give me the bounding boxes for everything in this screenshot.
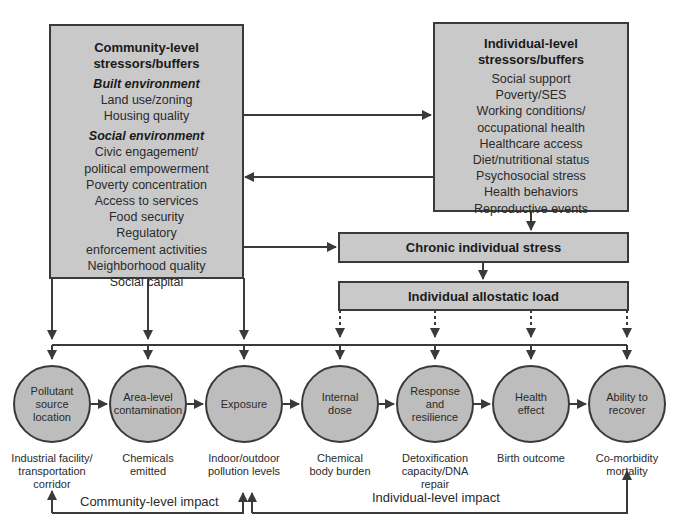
- stage-health-effect: Healtheffect: [492, 365, 570, 443]
- caption-line: Birth outcome: [497, 452, 565, 464]
- caption-line: pollution levels: [208, 465, 280, 477]
- individual-item: Healthcare access: [435, 136, 627, 152]
- caption-line: emitted: [130, 465, 166, 477]
- community-item: political empowerment: [51, 161, 242, 177]
- stage-label: resilience: [412, 411, 458, 423]
- community-item: Social capital: [51, 274, 242, 290]
- stage-label: and: [426, 398, 444, 410]
- individual-item: Psychosocial stress: [435, 168, 627, 184]
- community-level-impact-label: Community-level impact: [80, 494, 219, 509]
- individual-item: Reproductive events: [435, 201, 627, 217]
- stage-label: location: [33, 411, 71, 423]
- community-item: Access to services: [51, 193, 242, 209]
- caption-line: Co-morbidity: [596, 452, 658, 464]
- individual-item: Health behaviors: [435, 184, 627, 200]
- stage-pollutant-source: Pollutantsourcelocation: [13, 365, 91, 443]
- individual-item: Diet/nutritional status: [435, 152, 627, 168]
- community-stressors-box: Community-level stressors/buffers Built …: [49, 24, 244, 279]
- caption-line: body burden: [309, 465, 370, 477]
- community-item: Housing quality: [51, 108, 242, 124]
- caption-line: corridor: [33, 478, 70, 490]
- community-item: Civic engagement/: [51, 144, 242, 160]
- community-item: Food security: [51, 209, 242, 225]
- caption-line: Chemical: [317, 452, 363, 464]
- stage-label: Exposure: [221, 398, 267, 410]
- chronic-stress-box: Chronic individual stress: [338, 232, 629, 263]
- individual-item: Social support: [435, 71, 627, 87]
- caption-health-effect: Birth outcome: [476, 452, 586, 465]
- stage-label: contamination: [114, 404, 183, 416]
- stage-label: source: [35, 398, 68, 410]
- stage-area-contamination: Area-levelcontamination: [109, 365, 187, 443]
- stage-label: Pollutant: [31, 385, 74, 397]
- individual-box-title-2: stressors/buffers: [435, 52, 627, 68]
- caption-response-resilience: Detoxificationcapacity/DNArepair: [380, 452, 490, 491]
- stage-label: Ability to: [606, 391, 648, 403]
- stage-label: effect: [518, 404, 545, 416]
- caption-line: Indoor/outdoor: [208, 452, 280, 464]
- built-environment-heading: Built environment: [51, 76, 242, 92]
- caption-line: repair: [421, 478, 449, 490]
- caption-line: Detoxification: [402, 452, 468, 464]
- community-item: Neighborhood quality: [51, 258, 242, 274]
- individual-level-impact-label: Individual-level impact: [372, 490, 500, 505]
- caption-area-contamination: Chemicalsemitted: [93, 452, 203, 478]
- social-environment-heading: Social environment: [51, 128, 242, 144]
- stage-label: recover: [609, 404, 646, 416]
- community-box-title-1: Community-level: [51, 40, 242, 56]
- community-item: enforcement activities: [51, 242, 242, 258]
- stage-label: Response: [410, 385, 460, 397]
- community-item: Poverty concentration: [51, 177, 242, 193]
- caption-ability-to-recover: Co-morbiditymortality: [572, 452, 682, 478]
- stage-internal-dose: Internaldose: [301, 365, 379, 443]
- caption-line: mortality: [606, 465, 648, 477]
- caption-pollutant-source: Industrial facility/transportationcorrid…: [0, 452, 107, 491]
- caption-line: transportation: [18, 465, 85, 477]
- stage-label: Internal: [322, 391, 359, 403]
- caption-internal-dose: Chemicalbody burden: [285, 452, 395, 478]
- caption-line: Industrial facility/: [11, 452, 92, 464]
- stage-label: Health: [515, 391, 547, 403]
- caption-line: Chemicals: [122, 452, 173, 464]
- community-item: Land use/zoning: [51, 92, 242, 108]
- stage-exposure: Exposure: [205, 365, 283, 443]
- community-box-title-2: stressors/buffers: [51, 56, 242, 72]
- individual-stressors-box: Individual-level stressors/buffers Socia…: [433, 22, 629, 212]
- individual-item: Poverty/SES: [435, 87, 627, 103]
- caption-line: capacity/DNA: [402, 465, 469, 477]
- stage-ability-to-recover: Ability torecover: [588, 365, 666, 443]
- caption-exposure: Indoor/outdoorpollution levels: [189, 452, 299, 478]
- individual-box-title-1: Individual-level: [435, 36, 627, 52]
- stage-response-resilience: Responseandresilience: [396, 365, 474, 443]
- stage-label: dose: [328, 404, 352, 416]
- community-item: Regulatory: [51, 225, 242, 241]
- allostatic-load-box: Individual allostatic load: [338, 281, 629, 311]
- individual-item: occupational health: [435, 120, 627, 136]
- stage-label: Area-level: [123, 391, 173, 403]
- individual-item: Working conditions/: [435, 103, 627, 119]
